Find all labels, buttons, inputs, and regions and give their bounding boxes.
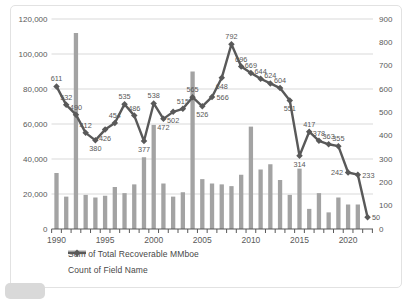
- line-data-label: 486: [128, 104, 140, 113]
- bar: [220, 184, 224, 229]
- legend-item-line-series: Count of Field Name: [68, 264, 199, 275]
- line-data-label: 604: [274, 76, 286, 85]
- left-axis-tick-label: 20,000: [23, 190, 48, 199]
- bar: [239, 175, 243, 229]
- line-data-label: 426: [99, 134, 111, 143]
- bar: [171, 197, 175, 229]
- line-data-label: 412: [80, 121, 92, 130]
- bar: [122, 193, 126, 229]
- bar: [74, 33, 78, 229]
- bar: [307, 209, 311, 229]
- bar: [258, 170, 262, 230]
- chart-legend: Sum of Total Recoverable MMboe Count of …: [68, 248, 199, 275]
- left-axis-tick-label: 0: [43, 225, 48, 234]
- line-data-label: 532: [60, 93, 72, 102]
- line-data-label: 502: [167, 116, 179, 125]
- line-data-label: 377: [138, 145, 150, 154]
- bar: [346, 205, 350, 230]
- line-marker: [364, 214, 371, 221]
- line-data-label: 380: [89, 144, 101, 153]
- bar: [181, 192, 185, 229]
- legend-label-bar-series: Sum of Total Recoverable MMboe: [68, 249, 199, 259]
- bar: [297, 169, 301, 229]
- partial-bottom-left-widget: [5, 283, 45, 299]
- line-data-label: 551: [284, 104, 296, 113]
- bar: [142, 157, 146, 229]
- right-axis-tick-label: 200: [379, 178, 393, 187]
- line-data-label: 233: [362, 171, 374, 180]
- bar: [356, 205, 360, 230]
- line-marker: [296, 152, 303, 159]
- line-data-label: 515: [177, 97, 189, 106]
- bar: [93, 198, 97, 230]
- line-marker: [355, 171, 362, 178]
- right-axis-tick-label: 600: [379, 85, 393, 94]
- x-axis-tick-label: 2010: [241, 235, 260, 245]
- line-data-label: 566: [217, 93, 229, 102]
- bar: [278, 180, 282, 229]
- left-axis-tick-label: 80,000: [23, 85, 48, 94]
- right-axis-tick-label: 700: [379, 61, 393, 70]
- line-data-label: 454: [109, 111, 121, 120]
- line-data-label: 538: [148, 91, 160, 100]
- line-data-label: 50: [372, 213, 380, 222]
- right-axis-tick-label: 300: [379, 155, 393, 164]
- x-axis-tick-label: 1990: [47, 235, 66, 245]
- x-axis-tick-label: 2020: [339, 235, 358, 245]
- line-data-label: 490: [70, 103, 82, 112]
- line-data-label: 242: [331, 168, 343, 177]
- line-marker: [345, 169, 352, 176]
- left-axis-tick-label: 100,000: [19, 50, 48, 59]
- right-axis-tick-label: 0: [379, 225, 384, 234]
- line-data-label: 314: [293, 160, 305, 169]
- line-marker: [141, 138, 148, 145]
- bar: [336, 198, 340, 230]
- x-axis-tick-label: 2000: [144, 235, 163, 245]
- bar: [113, 187, 117, 229]
- bar: [161, 184, 165, 230]
- line-data-label: 526: [196, 110, 208, 119]
- bar: [152, 125, 156, 229]
- left-axis-tick-label: 120,000: [19, 15, 48, 24]
- line-marker: [335, 143, 342, 150]
- right-axis-tick-label: 400: [379, 131, 393, 140]
- line-series-swatch-icon: [68, 248, 86, 258]
- x-axis-tick-label: 2015: [290, 235, 309, 245]
- legend-label-line-series: Count of Field Name: [68, 265, 148, 275]
- bar: [210, 184, 214, 230]
- line-data-label: 648: [216, 82, 228, 91]
- bar: [327, 212, 331, 229]
- line-data-label: 417: [303, 120, 315, 129]
- left-axis-tick-label: 40,000: [23, 155, 48, 164]
- bar: [103, 196, 107, 229]
- bar: [54, 173, 58, 229]
- bar: [249, 127, 253, 229]
- line-data-label: 355: [332, 134, 344, 143]
- left-axis-tick-label: 60,000: [23, 120, 48, 129]
- bar: [132, 184, 136, 229]
- line-data-label: 611: [51, 74, 63, 83]
- line-data-label: 792: [225, 32, 237, 41]
- bar: [317, 193, 321, 229]
- bar: [64, 197, 68, 229]
- right-axis-tick-label: 100: [379, 201, 393, 210]
- right-axis-tick-label: 500: [379, 108, 393, 117]
- line-data-label: 535: [118, 92, 130, 101]
- right-axis-tick-label: 900: [379, 15, 393, 24]
- bar: [229, 186, 233, 229]
- line-data-label: 565: [186, 85, 198, 94]
- bar: [288, 195, 292, 229]
- right-axis-tick-label: 800: [379, 38, 393, 47]
- x-axis-tick-label: 2005: [193, 235, 212, 245]
- x-axis-tick-label: 1995: [96, 235, 115, 245]
- bar: [268, 164, 272, 229]
- bar: [84, 195, 88, 229]
- legend-item-bar-series: Sum of Total Recoverable MMboe: [68, 248, 199, 259]
- line-marker: [325, 141, 332, 148]
- bar: [200, 179, 204, 229]
